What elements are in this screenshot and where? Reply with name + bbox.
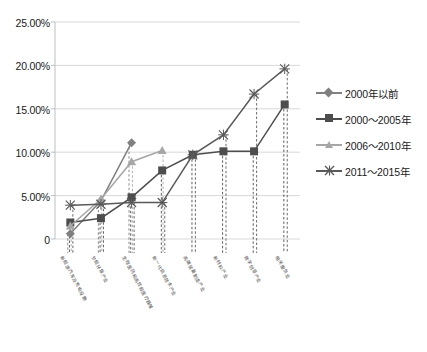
legend-label-3: 2011～2015年	[345, 164, 410, 179]
legend-item-2[interactable]: 2006～2010年	[316, 132, 424, 158]
legend: 2000年以前 2000～2005年 2006～2010年	[316, 80, 424, 184]
legend-label-1: 2000～2005年	[345, 112, 411, 127]
legend-label-0: 2000年以前	[345, 86, 398, 101]
axis-lines	[51, 22, 55, 239]
square-marker-icon	[316, 112, 342, 126]
legend-label-2: 2006～2010年	[345, 138, 411, 153]
diamond-marker-icon	[316, 86, 342, 100]
legend-item-1[interactable]: 2000～2005年	[316, 106, 424, 132]
line-chart: 25.00% 20.00% 15.00% 10.00% 5.00% 0 新能源汽…	[0, 0, 427, 352]
x-marker-icon	[316, 164, 342, 178]
triangle-marker-icon	[316, 138, 342, 152]
legend-item-3[interactable]: 2011～2015年	[316, 158, 424, 184]
legend-item-0[interactable]: 2000年以前	[316, 80, 424, 106]
